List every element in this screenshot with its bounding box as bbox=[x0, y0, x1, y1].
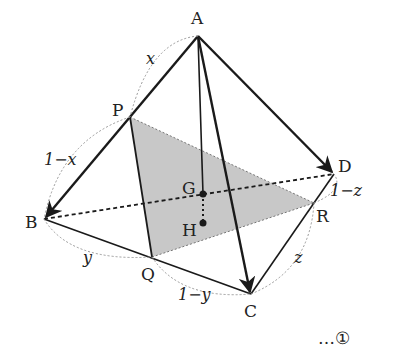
label-c: C bbox=[244, 301, 257, 321]
label-d: D bbox=[338, 156, 352, 176]
label-qc-1-y: 1−y bbox=[178, 285, 212, 304]
point-g-dot bbox=[200, 191, 207, 198]
label-ap-x: x bbox=[146, 49, 155, 68]
label-a: A bbox=[190, 8, 204, 28]
label-q: Q bbox=[141, 264, 155, 284]
equation-marker: …① bbox=[318, 328, 350, 348]
label-r: R bbox=[316, 206, 330, 226]
tetrahedron-figure: A B C D P Q R G H x 1−x y 1−y z 1−z …① bbox=[0, 0, 399, 364]
vector-ad bbox=[198, 36, 332, 172]
label-p: P bbox=[112, 100, 123, 120]
label-pb-1-x: 1−x bbox=[44, 150, 77, 169]
label-rd-1-z: 1−z bbox=[330, 181, 363, 200]
label-bq-y: y bbox=[82, 248, 93, 267]
shaded-triangle-pqr bbox=[130, 117, 314, 257]
point-h-dot bbox=[200, 220, 207, 227]
label-g: G bbox=[182, 178, 196, 198]
label-cr-z: z bbox=[293, 248, 303, 267]
label-h: H bbox=[182, 220, 197, 240]
label-b: B bbox=[25, 212, 38, 232]
